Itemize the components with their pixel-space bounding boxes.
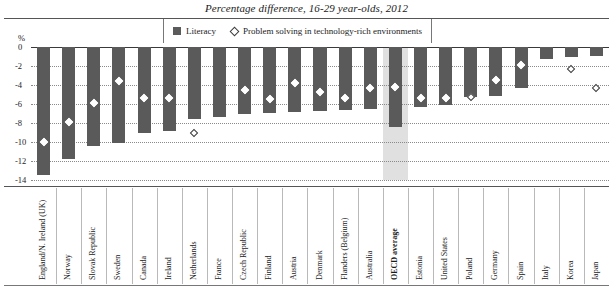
legend-item-literacy: Literacy (173, 26, 216, 36)
bar-ireland (163, 47, 176, 131)
category-label-finland: Finland (265, 256, 273, 280)
category-label-italy: Italy (542, 265, 550, 280)
category-label-germany: Germany (491, 250, 499, 280)
legend-label-literacy: Literacy (186, 26, 216, 36)
bar-korea (565, 47, 578, 57)
category-separator (534, 188, 535, 284)
category-separator (508, 188, 509, 284)
category-label-ireland: Ireland (165, 257, 173, 280)
category-separator (282, 188, 283, 284)
category-label-france: France (215, 258, 223, 280)
category-label-united-states: United States (441, 237, 449, 280)
category-label-flanders-belgium: Flanders (Belgium) (341, 218, 349, 280)
bar-netherlands (188, 47, 201, 119)
bar-norway (62, 47, 75, 159)
category-separator (433, 188, 434, 284)
y-axis-tick--12: -12 (15, 156, 26, 166)
bar-england-n-ireland-uk (37, 47, 50, 175)
y-axis-tick--10: -10 (15, 137, 26, 147)
diamond-netherlands (190, 128, 198, 136)
category-separator (559, 188, 560, 284)
bottom-rule (4, 285, 609, 286)
bar-denmark (313, 47, 326, 111)
legend-diamond-swatch-icon (230, 27, 238, 35)
y-axis-tick--14: -14 (15, 175, 26, 185)
y-axis-tick-0: 0 (18, 42, 22, 52)
bar-france (213, 47, 226, 117)
bar-germany (489, 47, 502, 96)
category-separator (182, 188, 183, 284)
category-separator (584, 188, 585, 284)
category-separator (157, 188, 158, 284)
category-separator (358, 188, 359, 284)
y-axis-tick--4: -4 (15, 80, 22, 90)
bar-australia (364, 47, 377, 109)
plot-area: 0-2-4-6-8-10-12-14 (31, 47, 609, 180)
category-label-japan: Japan (592, 262, 600, 280)
category-label-england-n-ireland-uk: England/N. Ireland (UK) (39, 200, 47, 280)
bar-sweden (112, 47, 125, 143)
category-separator (257, 188, 258, 284)
bar-poland (464, 47, 477, 97)
legend-bar-swatch-icon (173, 27, 181, 35)
category-label-slovak-republic: Slovak Republic (89, 227, 97, 280)
category-separator (333, 188, 334, 284)
bar-italy (540, 47, 553, 59)
bar-slovak-republic (87, 47, 100, 146)
plot-clip: 0-2-4-6-8-10-12-14 (31, 47, 609, 180)
category-label-spain: Spain (517, 262, 525, 280)
category-separator (483, 188, 484, 284)
legend-label-problem-solving: Problem solving in technology-rich envir… (243, 26, 422, 36)
category-separator (232, 188, 233, 284)
category-label-korea: Korea (567, 260, 575, 280)
category-label-norway: Norway (64, 254, 72, 280)
legend-item-problem-solving: Problem solving in technology-rich envir… (230, 26, 422, 36)
category-axis-rule (4, 186, 609, 187)
category-label-austria: Austria (290, 256, 298, 280)
y-axis-tick--8: -8 (15, 118, 22, 128)
category-separator (106, 188, 107, 284)
category-label-czech-republic: Czech Republic (240, 229, 248, 280)
category-label-sweden: Sweden (114, 255, 122, 280)
category-label-oecd-average: OECD average (391, 228, 399, 280)
category-separator (207, 188, 208, 284)
chart-legend: Literacy Problem solving in technology-r… (163, 19, 432, 43)
category-axis-labels: England/N. Ireland (UK)NorwaySlovak Repu… (31, 188, 609, 284)
category-label-canada: Canada (140, 256, 148, 280)
category-label-australia: Australia (366, 251, 374, 280)
category-separator (56, 188, 57, 284)
category-separator (458, 188, 459, 284)
category-label-denmark: Denmark (316, 250, 324, 280)
bar-czech-republic (238, 47, 251, 114)
bar-canada (138, 47, 151, 133)
category-label-netherlands: Netherlands (190, 241, 198, 280)
y-axis-tick--2: -2 (15, 61, 22, 71)
category-separator (408, 188, 409, 284)
y-axis-tick--6: -6 (15, 99, 22, 109)
category-separator (132, 188, 133, 284)
gridline--14 (31, 180, 609, 181)
bar-japan (590, 47, 603, 56)
category-separator (383, 188, 384, 284)
gridline--12 (31, 161, 609, 162)
category-label-poland: Poland (466, 258, 474, 280)
chart-title: Percentage difference, 16-29 year-olds, … (0, 2, 613, 14)
category-separator (307, 188, 308, 284)
category-separator (81, 188, 82, 284)
category-label-estonia: Estonia (416, 256, 424, 280)
